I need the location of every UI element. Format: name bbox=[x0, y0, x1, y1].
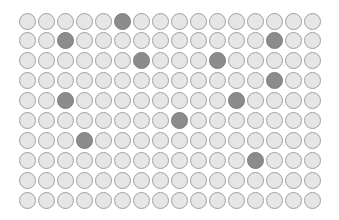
empty-circle bbox=[133, 132, 150, 149]
empty-circle bbox=[209, 132, 226, 149]
filled-circle bbox=[266, 72, 283, 89]
filled-circle bbox=[247, 152, 264, 169]
empty-circle bbox=[19, 32, 36, 49]
empty-circle bbox=[171, 152, 188, 169]
empty-circle bbox=[247, 132, 264, 149]
empty-circle bbox=[38, 72, 55, 89]
empty-circle bbox=[57, 112, 74, 129]
empty-circle bbox=[171, 13, 188, 30]
empty-circle bbox=[247, 172, 264, 189]
empty-circle bbox=[304, 52, 321, 69]
empty-circle bbox=[19, 72, 36, 89]
empty-circle bbox=[285, 172, 302, 189]
empty-circle bbox=[228, 72, 245, 89]
empty-circle bbox=[171, 92, 188, 109]
empty-circle bbox=[19, 112, 36, 129]
empty-circle bbox=[190, 52, 207, 69]
empty-circle bbox=[95, 32, 112, 49]
empty-circle bbox=[38, 32, 55, 49]
empty-circle bbox=[95, 92, 112, 109]
filled-circle bbox=[171, 112, 188, 129]
empty-circle bbox=[228, 132, 245, 149]
empty-circle bbox=[95, 172, 112, 189]
empty-circle bbox=[228, 52, 245, 69]
empty-circle bbox=[228, 152, 245, 169]
empty-circle bbox=[266, 13, 283, 30]
empty-circle bbox=[228, 192, 245, 209]
empty-circle bbox=[266, 172, 283, 189]
empty-circle bbox=[57, 172, 74, 189]
empty-circle bbox=[285, 192, 302, 209]
empty-circle bbox=[133, 112, 150, 129]
empty-circle bbox=[95, 13, 112, 30]
empty-circle bbox=[38, 192, 55, 209]
empty-circle bbox=[152, 13, 169, 30]
empty-circle bbox=[190, 92, 207, 109]
empty-circle bbox=[209, 112, 226, 129]
empty-circle bbox=[285, 132, 302, 149]
empty-circle bbox=[152, 112, 169, 129]
empty-circle bbox=[114, 112, 131, 129]
empty-circle bbox=[247, 13, 264, 30]
empty-circle bbox=[114, 92, 131, 109]
empty-circle bbox=[57, 192, 74, 209]
empty-circle bbox=[38, 132, 55, 149]
empty-circle bbox=[171, 72, 188, 89]
empty-circle bbox=[228, 13, 245, 30]
filled-circle bbox=[266, 32, 283, 49]
dot-grid bbox=[18, 12, 322, 211]
empty-circle bbox=[114, 52, 131, 69]
empty-circle bbox=[285, 52, 302, 69]
empty-circle bbox=[57, 13, 74, 30]
empty-circle bbox=[304, 132, 321, 149]
empty-circle bbox=[57, 52, 74, 69]
empty-circle bbox=[19, 52, 36, 69]
empty-circle bbox=[190, 72, 207, 89]
empty-circle bbox=[285, 32, 302, 49]
empty-circle bbox=[190, 152, 207, 169]
empty-circle bbox=[76, 52, 93, 69]
empty-circle bbox=[171, 52, 188, 69]
empty-circle bbox=[133, 172, 150, 189]
empty-circle bbox=[171, 192, 188, 209]
empty-circle bbox=[285, 152, 302, 169]
empty-circle bbox=[133, 92, 150, 109]
filled-circle bbox=[114, 13, 131, 30]
empty-circle bbox=[190, 192, 207, 209]
empty-circle bbox=[76, 152, 93, 169]
empty-circle bbox=[304, 172, 321, 189]
filled-circle bbox=[57, 92, 74, 109]
empty-circle bbox=[38, 172, 55, 189]
empty-circle bbox=[266, 92, 283, 109]
empty-circle bbox=[95, 112, 112, 129]
empty-circle bbox=[247, 112, 264, 129]
filled-circle bbox=[228, 92, 245, 109]
empty-circle bbox=[76, 172, 93, 189]
empty-circle bbox=[76, 112, 93, 129]
empty-circle bbox=[209, 172, 226, 189]
empty-circle bbox=[57, 132, 74, 149]
empty-circle bbox=[152, 32, 169, 49]
empty-circle bbox=[285, 72, 302, 89]
empty-circle bbox=[190, 32, 207, 49]
empty-circle bbox=[266, 52, 283, 69]
empty-circle bbox=[152, 132, 169, 149]
empty-circle bbox=[152, 52, 169, 69]
empty-circle bbox=[190, 172, 207, 189]
empty-circle bbox=[304, 152, 321, 169]
empty-circle bbox=[171, 172, 188, 189]
empty-circle bbox=[209, 192, 226, 209]
empty-circle bbox=[209, 72, 226, 89]
empty-circle bbox=[133, 72, 150, 89]
empty-circle bbox=[95, 152, 112, 169]
empty-circle bbox=[247, 192, 264, 209]
empty-circle bbox=[247, 72, 264, 89]
empty-circle bbox=[76, 72, 93, 89]
empty-circle bbox=[114, 152, 131, 169]
empty-circle bbox=[76, 32, 93, 49]
empty-circle bbox=[304, 92, 321, 109]
empty-circle bbox=[38, 152, 55, 169]
empty-circle bbox=[19, 172, 36, 189]
empty-circle bbox=[285, 112, 302, 129]
empty-circle bbox=[247, 92, 264, 109]
